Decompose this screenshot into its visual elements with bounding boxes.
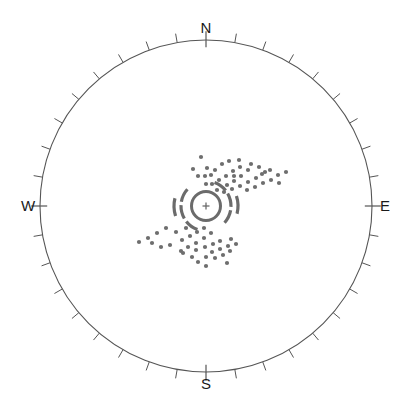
scatter-point bbox=[231, 169, 235, 173]
scatter-point bbox=[232, 179, 236, 183]
azimuth-tick-minor bbox=[54, 289, 62, 294]
center-arc-segment bbox=[174, 198, 176, 216]
scatter-point bbox=[137, 240, 141, 244]
scatter-point bbox=[263, 170, 267, 174]
scatter-point bbox=[246, 180, 250, 184]
azimuth-tick-minor bbox=[146, 42, 149, 50]
scatter-point bbox=[226, 244, 230, 248]
azimuth-tick-minor bbox=[350, 289, 358, 294]
azimuth-tick-minor bbox=[263, 42, 266, 50]
azimuth-tick-minor bbox=[146, 362, 149, 370]
scatter-point bbox=[249, 162, 253, 166]
azimuth-tick-minor bbox=[362, 263, 370, 266]
scatter-points-group bbox=[137, 155, 288, 268]
scatter-point bbox=[269, 178, 273, 182]
azimuth-tick-minor bbox=[94, 333, 100, 340]
scatter-point bbox=[204, 264, 208, 268]
scatter-point bbox=[253, 185, 257, 189]
cardinal-label-west: W bbox=[21, 197, 36, 214]
azimuth-tick-minor bbox=[263, 362, 266, 370]
center-arc-segment bbox=[228, 194, 231, 207]
scatter-point bbox=[146, 236, 150, 240]
center-arc-segment bbox=[236, 196, 238, 214]
scatter-point bbox=[215, 188, 219, 192]
polar-plot-svg: N E S W bbox=[0, 0, 412, 413]
scatter-point bbox=[224, 174, 228, 178]
scatter-point bbox=[234, 242, 238, 246]
scatter-point bbox=[237, 158, 241, 162]
center-arc-segment bbox=[225, 210, 231, 222]
scatter-point bbox=[168, 243, 172, 247]
scatter-point bbox=[203, 245, 207, 249]
scatter-point bbox=[191, 167, 195, 171]
scatter-point bbox=[218, 239, 222, 243]
scatter-point bbox=[276, 173, 280, 177]
scatter-point bbox=[268, 168, 272, 172]
azimuth-tick-minor bbox=[72, 313, 79, 319]
azimuth-tick-minor bbox=[313, 333, 319, 340]
scatter-point bbox=[227, 159, 231, 163]
scatter-point bbox=[150, 241, 154, 245]
azimuth-tick-minor bbox=[369, 176, 378, 178]
scatter-point bbox=[196, 260, 200, 264]
azimuth-tick-minor bbox=[289, 350, 294, 358]
azimuth-tick-minor bbox=[235, 34, 237, 43]
scatter-point bbox=[202, 226, 206, 230]
azimuth-tick-minor bbox=[119, 350, 124, 358]
azimuth-tick-minor bbox=[34, 235, 43, 237]
scatter-point bbox=[184, 226, 188, 230]
scatter-point bbox=[203, 174, 207, 178]
scatter-point bbox=[205, 166, 209, 170]
azimuth-tick-minor bbox=[119, 54, 124, 62]
center-arc-segment bbox=[181, 189, 187, 201]
scatter-point bbox=[164, 226, 168, 230]
cardinal-label-south: S bbox=[201, 375, 211, 392]
center-target-marker bbox=[192, 192, 221, 221]
cardinal-label-east: E bbox=[380, 197, 390, 214]
azimuth-tick-minor bbox=[54, 119, 62, 124]
azimuth-tick-minor bbox=[176, 369, 178, 378]
center-arc-segment bbox=[181, 205, 184, 218]
scatter-point bbox=[238, 165, 242, 169]
scatter-point bbox=[186, 245, 190, 249]
scatter-point bbox=[245, 188, 249, 192]
scatter-point bbox=[190, 255, 194, 259]
scatter-point bbox=[204, 255, 208, 259]
cardinal-label-north: N bbox=[201, 19, 212, 36]
azimuth-tick-minor bbox=[34, 176, 43, 178]
scatter-point bbox=[254, 176, 258, 180]
azimuth-tick-minor bbox=[42, 146, 50, 149]
scatter-point bbox=[155, 231, 159, 235]
azimuth-tick-minor bbox=[289, 54, 294, 62]
azimuth-tick-minor bbox=[350, 119, 358, 124]
scatter-point bbox=[261, 181, 265, 185]
azimuth-tick-minor bbox=[235, 369, 237, 378]
scatter-point bbox=[221, 253, 225, 257]
scatter-point bbox=[238, 184, 242, 188]
scatter-point bbox=[204, 182, 208, 186]
azimuth-tick-minor bbox=[362, 146, 370, 149]
scatter-point bbox=[277, 181, 281, 185]
scatter-point bbox=[217, 178, 221, 182]
scatter-point bbox=[222, 190, 226, 194]
scatter-point bbox=[230, 187, 234, 191]
scatter-point bbox=[220, 162, 224, 166]
scatter-point bbox=[232, 174, 236, 178]
scatter-point bbox=[225, 261, 229, 265]
scatter-point bbox=[194, 241, 198, 245]
scatter-point bbox=[246, 168, 250, 172]
scatter-point bbox=[218, 247, 222, 251]
scatter-point bbox=[257, 165, 261, 169]
scatter-point bbox=[194, 248, 198, 252]
scatter-point bbox=[188, 234, 192, 238]
azimuth-tick-minor bbox=[313, 72, 319, 79]
scatter-point bbox=[181, 251, 185, 255]
azimuth-tick-minor bbox=[176, 34, 178, 43]
scatter-point bbox=[195, 230, 199, 234]
scatter-point bbox=[210, 250, 214, 254]
azimuth-tick-minor bbox=[42, 263, 50, 266]
scatter-point bbox=[209, 231, 213, 235]
azimuth-tick-minor bbox=[369, 235, 378, 237]
scatter-point bbox=[239, 174, 243, 178]
scatter-point bbox=[284, 170, 288, 174]
